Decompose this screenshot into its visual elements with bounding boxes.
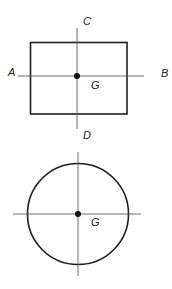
circle-figure: G: [13, 152, 141, 276]
rectangle-figure: C A B D G: [7, 15, 168, 141]
label-g-rectangle: G: [91, 79, 100, 91]
label-c: C: [83, 15, 91, 27]
label-d: D: [83, 129, 91, 141]
label-g-circle: G: [91, 216, 100, 228]
label-a: A: [7, 66, 15, 78]
label-b: B: [161, 67, 168, 79]
centroid-dot-circle: [75, 211, 81, 217]
diagram-canvas: C A B D G G: [0, 0, 172, 289]
centroid-dot: [74, 73, 80, 79]
